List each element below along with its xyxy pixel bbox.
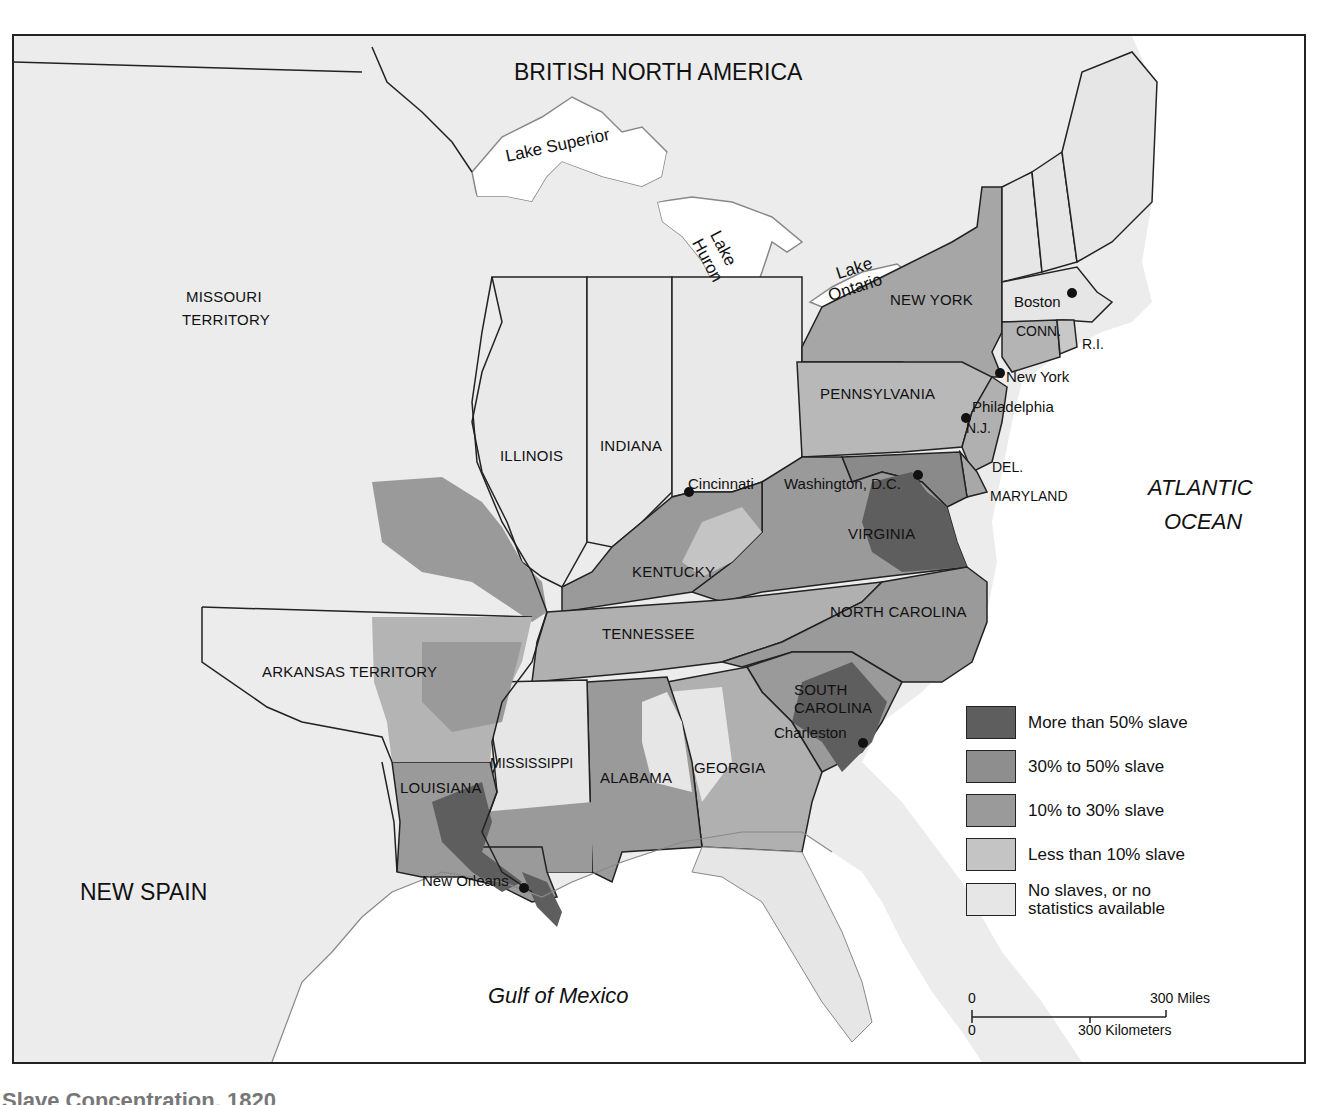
city-dot-charleston xyxy=(858,738,868,748)
label-illinois: ILLINOIS xyxy=(500,448,563,465)
label-north-carolina: NORTH CAROLINA xyxy=(830,604,967,621)
legend-label-30-to-50: 30% to 50% slave xyxy=(1028,758,1164,776)
legend-label-more-than-50: More than 50% slave xyxy=(1028,714,1188,732)
scale-km-label: 300 Kilometers xyxy=(1078,1023,1171,1038)
label-indiana: INDIANA xyxy=(600,438,662,455)
legend-swatch-30-to-50 xyxy=(966,750,1016,783)
label-atlantic-ocean-line1: ATLANTIC xyxy=(1148,476,1253,500)
label-new-spain: NEW SPAIN xyxy=(80,880,207,905)
legend-label-no-slaves: No slaves, or no statistics available xyxy=(1028,882,1165,918)
legend-label-10-to-30: 10% to 30% slave xyxy=(1028,802,1164,820)
label-missouri-territory-line2: TERRITORY xyxy=(182,312,270,329)
label-charleston: Charleston xyxy=(774,725,847,742)
label-gulf-of-mexico: Gulf of Mexico xyxy=(488,984,629,1008)
label-south-carolina-line2: CAROLINA xyxy=(794,700,872,717)
label-cincinnati: Cincinnati xyxy=(688,476,754,493)
legend-label-less-than-10: Less than 10% slave xyxy=(1028,846,1185,864)
label-tennessee: TENNESSEE xyxy=(602,626,695,643)
legend-swatch-no-slaves xyxy=(966,883,1016,916)
label-new-jersey: N.J. xyxy=(966,421,991,436)
label-boston: Boston xyxy=(1014,294,1061,311)
scale-bar-line xyxy=(966,1009,1206,1023)
scale-miles-label: 300 Miles xyxy=(1150,991,1210,1006)
legend-swatch-more-than-50 xyxy=(966,706,1016,739)
label-new-orleans: New Orleans xyxy=(422,873,509,890)
label-georgia: GEORGIA xyxy=(694,760,765,777)
label-virginia: VIRGINIA xyxy=(848,526,915,543)
legend-item-less-than-10: Less than 10% slave xyxy=(966,838,1188,871)
label-kentucky: KENTUCKY xyxy=(632,564,715,581)
label-arkansas-territory: ARKANSAS TERRITORY xyxy=(262,664,437,681)
scale-bar: 0 300 Miles 0 300 Kilometers xyxy=(966,991,1226,1051)
label-pennsylvania: PENNSYLVANIA xyxy=(820,386,935,403)
city-dot-washington xyxy=(913,470,923,480)
label-south-carolina-line1: SOUTH xyxy=(794,682,848,699)
legend-item-10-to-30: 10% to 30% slave xyxy=(966,794,1188,827)
legend-item-30-to-50: 30% to 50% slave xyxy=(966,750,1188,783)
label-mississippi: MISSISSIPPI xyxy=(490,756,573,771)
label-washington-dc: Washington, D.C. xyxy=(784,476,901,493)
label-philadelphia: Philadelphia xyxy=(972,399,1054,416)
label-delaware: DEL. xyxy=(992,460,1023,475)
legend-item-no-slaves: No slaves, or no statistics available xyxy=(966,882,1188,918)
label-connecticut: CONN. xyxy=(1016,324,1061,339)
scale-miles-zero: 0 xyxy=(968,991,976,1006)
label-atlantic-ocean-line2: OCEAN xyxy=(1164,510,1242,534)
city-dot-boston xyxy=(1067,288,1077,298)
label-missouri-territory-line1: MISSOURI xyxy=(186,289,262,306)
label-louisiana: LOUISIANA xyxy=(400,780,482,797)
city-dot-new-york xyxy=(995,368,1005,378)
label-alabama: ALABAMA xyxy=(600,770,672,787)
legend-swatch-less-than-10 xyxy=(966,838,1016,871)
legend-swatch-10-to-30 xyxy=(966,794,1016,827)
city-dot-new-orleans xyxy=(519,883,529,893)
legend-item-more-than-50: More than 50% slave xyxy=(966,706,1188,739)
map-caption: Slave Concentration, 1820 xyxy=(2,1088,276,1105)
label-british-north-america: BRITISH NORTH AMERICA xyxy=(514,60,802,85)
label-new-york: NEW YORK xyxy=(890,292,973,309)
map-legend: More than 50% slave 30% to 50% slave 10%… xyxy=(966,706,1188,929)
scale-km-zero: 0 xyxy=(968,1023,976,1038)
label-maryland: MARYLAND xyxy=(990,489,1068,504)
state-ohio xyxy=(672,277,802,497)
label-new-york-city: New York xyxy=(1006,369,1069,386)
map-frame: BRITISH NORTH AMERICA MISSOURI TERRITORY… xyxy=(12,34,1306,1064)
legend-label-no-slaves-line2: statistics available xyxy=(1028,900,1165,918)
label-rhode-island: R.I. xyxy=(1082,337,1104,352)
legend-label-no-slaves-line1: No slaves, or no xyxy=(1028,882,1165,900)
